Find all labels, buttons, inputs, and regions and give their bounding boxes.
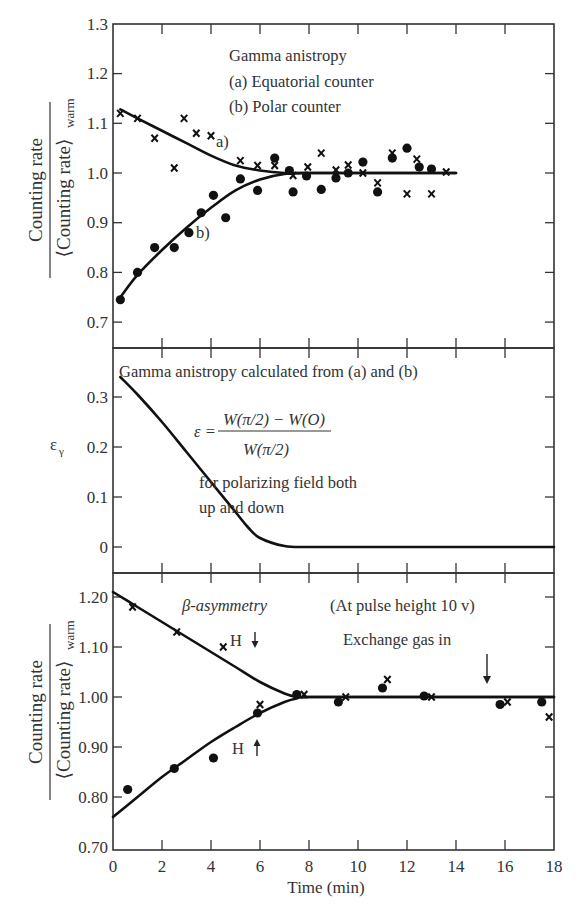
y-tick: 1.2 [87,64,108,83]
top-y-axis-label: Counting rate ⟨Counting rate⟩ warm [25,98,77,278]
data-point-cross [546,714,552,721]
axis-ticks [113,24,554,850]
data-point-dot [334,697,343,706]
h-up-label: H [232,739,261,758]
x-tick: 14 [448,857,466,876]
fit-curve [120,109,456,173]
data-point-cross [404,190,410,197]
data-point-dot [221,213,230,222]
y-label-denominator: ⟨Counting rate⟩ [53,139,74,258]
formula-lhs: ε = [194,422,216,441]
bottom-panel-title: β-asymmetry [181,596,268,615]
data-point-dot [150,243,159,252]
y-label-subscript: warm [62,98,77,128]
data-point-cross [428,190,434,197]
y-tick: 0.90 [78,738,108,757]
data-point-cross [305,164,311,171]
svg-text:H: H [230,631,242,650]
arrow-up-icon [254,739,261,756]
x-tick: 18 [546,857,563,876]
curve-a-label: a) [216,132,229,151]
y-tick: 0.70 [78,838,108,857]
y-tick: 0 [100,538,109,557]
svg-text:H: H [232,739,244,758]
data-point-cross [171,165,177,172]
x-tick: 16 [497,857,514,876]
x-tick: 4 [207,857,216,876]
x-tick: 10 [350,857,367,876]
y-tick: 1.0 [87,164,108,183]
data-point-dot [537,697,546,706]
data-point-dot [402,144,411,153]
epsilon-symbol: ε [50,435,57,454]
x-tick: 2 [158,857,167,876]
top-y-tick-labels: 1.3 1.2 1.1 1.0 0.9 0.8 0.7 [87,15,109,332]
data-point-dot [253,186,262,195]
data-point-cross [384,676,390,683]
y-tick: 0.1 [87,488,108,507]
middle-y-tick-labels: 0.3 0.2 0.1 0 [87,388,108,557]
data-point-dot [170,243,179,252]
data-point-cross [181,115,187,122]
data-point-dot [358,157,367,166]
data-point-cross [345,162,351,169]
y-label-denominator: ⟨Counting rate⟩ [53,661,74,780]
middle-y-axis-label: ε γ [50,435,64,457]
data-point-dot [270,153,279,162]
y-tick: 1.20 [78,588,108,607]
data-point-cross [374,179,380,186]
data-point-dot [378,683,387,692]
bottom-y-axis-label: Counting rate ⟨Counting rate⟩ warm [25,620,77,800]
data-point-cross [220,644,226,651]
y-tick: 0.8 [87,263,108,282]
field-note-line1: for polarizing field both [199,473,358,492]
data-point-dot [123,785,132,794]
pulse-height-note: (At pulse height 10 v) [330,596,475,615]
x-axis-label: Time (min) [287,878,364,897]
data-point-dot [331,173,340,182]
formula-denominator: W(π/2) [243,440,289,459]
top-panel-title: Gamma anistropy [229,46,348,65]
y-tick: 1.3 [87,15,108,34]
formula-numerator: W(π/2) − W(O) [223,410,325,429]
data-point-cross [257,701,263,708]
data-point-cross [151,135,157,142]
data-point-cross [318,150,324,157]
y-label-subscript: warm [62,620,77,650]
y-tick: 0.80 [78,788,108,807]
data-point-dot [209,191,218,200]
middle-panel-title: Gamma anistropy calculated from (a) and … [119,362,418,381]
x-tick: 6 [256,857,265,876]
epsilon-formula: ε = W(π/2) − W(O) W(π/2) [194,410,331,459]
y-label-numerator: Counting rate [25,660,46,764]
x-tick: 8 [305,857,314,876]
h-down-label: H [230,631,259,650]
y-tick: 0.9 [87,213,108,232]
data-point-dot [209,753,218,762]
data-point-dot [317,185,326,194]
field-note-line2: up and down [199,498,284,517]
figure-canvas: 1.3 1.2 1.1 1.0 0.9 0.8 0.7 Counting rat… [0,0,577,910]
y-tick: 1.10 [78,638,108,657]
data-series [113,109,554,817]
y-tick: 1.1 [87,114,108,133]
data-point-cross [254,162,260,169]
y-label-numerator: Counting rate [25,138,46,242]
data-point-cross [193,130,199,137]
data-point-cross [504,699,510,706]
fit-curve [113,697,554,817]
data-point-cross [208,132,214,139]
data-point-dot [496,700,505,709]
data-point-dot [388,153,397,162]
curve-b-label: b) [196,223,210,242]
data-point-dot [288,187,297,196]
legend-b: (b) Polar counter [229,97,341,116]
fit-curve [120,377,554,547]
x-tick-labels: 024681012141618 [109,857,563,876]
data-point-dot [415,162,424,171]
y-tick: 1.00 [78,688,108,707]
middle-panel-frame [113,348,554,573]
data-point-cross [414,156,420,163]
exchange-gas-arrow-icon [483,654,491,684]
gamma-subscript: γ [58,445,64,457]
